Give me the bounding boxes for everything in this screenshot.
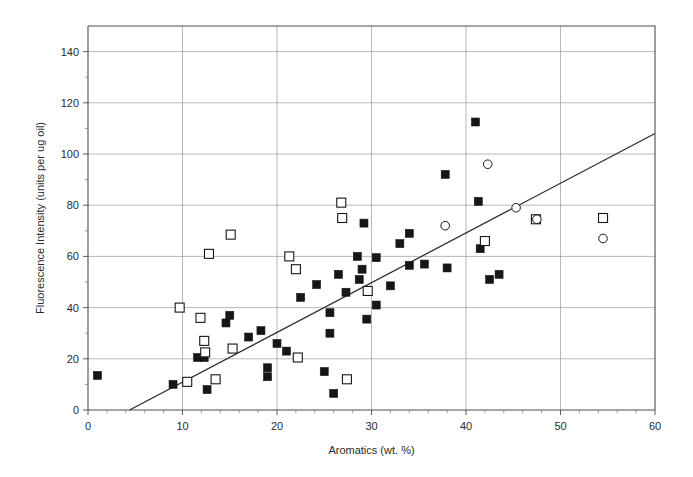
data-point-open-square (175, 303, 184, 312)
data-point-open-square (338, 214, 347, 223)
data-point-filled-square (396, 240, 404, 248)
data-point-filled-square (342, 288, 350, 296)
data-point-filled-square (273, 339, 281, 347)
data-point-filled-square (313, 281, 321, 289)
data-point-filled-square (486, 275, 494, 283)
data-point-filled-square (320, 368, 328, 376)
data-point-filled-square (222, 319, 230, 327)
data-point-open-square (337, 198, 346, 207)
y-tick-label: 140 (61, 46, 79, 58)
data-point-open-square (211, 375, 220, 384)
data-point-filled-square (334, 270, 342, 278)
data-point-filled-square (330, 389, 338, 397)
x-axis-title: Aromatics (wt. %) (328, 444, 414, 456)
data-point-open-square (342, 375, 351, 384)
x-tick-label: 60 (649, 420, 661, 432)
data-point-open-square (285, 252, 294, 261)
data-point-filled-square (360, 219, 368, 227)
data-point-filled-square (326, 309, 334, 317)
data-point-filled-square (358, 265, 366, 273)
data-point-filled-square (363, 315, 371, 323)
data-point-open-circle (441, 221, 450, 230)
data-point-filled-square (405, 261, 413, 269)
data-point-filled-square (264, 373, 272, 381)
x-tick-label: 20 (271, 420, 283, 432)
data-point-open-square (200, 336, 209, 345)
data-point-filled-square (405, 229, 413, 237)
data-point-filled-square (297, 293, 305, 301)
x-tick-label: 0 (85, 420, 91, 432)
data-point-open-square (599, 214, 608, 223)
data-point-open-square (201, 348, 210, 357)
data-point-open-circle (599, 234, 608, 243)
data-point-open-circle (483, 160, 492, 169)
data-point-filled-square (441, 170, 449, 178)
x-tick-label: 50 (554, 420, 566, 432)
x-tick-label: 30 (365, 420, 377, 432)
data-point-filled-square (386, 282, 394, 290)
data-point-filled-square (326, 329, 334, 337)
x-tick-label: 40 (460, 420, 472, 432)
data-point-filled-square (474, 197, 482, 205)
data-point-filled-square (282, 347, 290, 355)
data-point-open-square (228, 344, 237, 353)
data-point-filled-square (353, 252, 361, 260)
data-point-filled-square (93, 371, 101, 379)
data-point-filled-square (355, 275, 363, 283)
plot-canvas: 0204060801001201400102030405060Aromatics… (0, 0, 693, 477)
y-tick-label: 120 (61, 97, 79, 109)
data-point-open-circle (512, 203, 521, 212)
data-point-open-square (480, 237, 489, 246)
data-point-filled-square (372, 301, 380, 309)
y-tick-label: 0 (73, 404, 79, 416)
data-point-filled-square (169, 380, 177, 388)
data-point-filled-square (443, 264, 451, 272)
data-point-open-square (291, 265, 300, 274)
data-point-filled-square (245, 333, 253, 341)
y-tick-label: 80 (67, 199, 79, 211)
data-point-filled-square (264, 364, 272, 372)
x-tick-label: 10 (176, 420, 188, 432)
data-point-filled-square (420, 260, 428, 268)
data-point-filled-square (471, 118, 479, 126)
y-tick-label: 20 (67, 353, 79, 365)
y-tick-label: 40 (67, 302, 79, 314)
data-point-filled-square (257, 327, 265, 335)
data-point-open-square (363, 286, 372, 295)
y-axis-title: Fluorescence Intensity (units per ug oil… (34, 122, 46, 314)
data-point-open-square (226, 230, 235, 239)
data-point-open-square (204, 249, 213, 258)
data-point-filled-square (495, 270, 503, 278)
data-point-filled-square (203, 386, 211, 394)
data-point-open-circle (533, 215, 542, 224)
scatter-chart: 0204060801001201400102030405060Aromatics… (0, 0, 693, 477)
data-point-open-square (293, 353, 302, 362)
data-point-filled-square (372, 254, 380, 262)
regression-line (130, 134, 655, 410)
y-tick-label: 60 (67, 250, 79, 262)
data-point-open-square (183, 377, 192, 386)
data-point-open-square (196, 313, 205, 322)
data-point-filled-square (226, 311, 234, 319)
y-tick-label: 100 (61, 148, 79, 160)
